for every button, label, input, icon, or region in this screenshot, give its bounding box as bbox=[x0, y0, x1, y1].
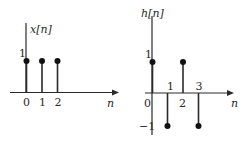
h-n-ytick-pos1: 1 bbox=[145, 48, 152, 61]
x-n-xtick-1: 1 bbox=[39, 96, 46, 109]
plot-h-n: h[n] 1 −1 0 1 2 3 n bbox=[139, 7, 238, 135]
x-n-axis-arrow-icon bbox=[112, 90, 119, 96]
x-n-xlabel: n bbox=[107, 97, 114, 110]
h-n-marker-2 bbox=[180, 59, 186, 65]
x-n-marker-1 bbox=[39, 58, 45, 64]
h-n-ylabel: h[n] bbox=[141, 7, 164, 20]
h-n-axis-arrow-icon bbox=[227, 90, 234, 96]
h-n-xlabel: n bbox=[231, 97, 238, 110]
figure: x[n] 1 0 1 2 n h[n] 1 −1 0 1 2 3 n bbox=[0, 0, 251, 141]
x-n-ylabel: x[n] bbox=[30, 23, 53, 36]
x-n-xtick-0: 0 bbox=[23, 96, 30, 109]
h-n-xtick-0: 0 bbox=[144, 97, 151, 110]
h-n-xtick-3: 3 bbox=[196, 80, 203, 93]
x-n-marker-2 bbox=[55, 58, 61, 64]
plot-x-n: x[n] 1 0 1 2 n bbox=[10, 23, 119, 110]
h-n-marker-3 bbox=[196, 123, 202, 129]
h-n-xtick-1: 1 bbox=[167, 80, 174, 93]
x-n-xtick-2: 2 bbox=[55, 96, 62, 109]
x-n-ytick-1: 1 bbox=[19, 47, 26, 60]
h-n-ytick-neg1: −1 bbox=[139, 120, 155, 133]
h-n-xtick-2: 2 bbox=[179, 97, 186, 110]
h-n-marker-1 bbox=[165, 123, 171, 129]
